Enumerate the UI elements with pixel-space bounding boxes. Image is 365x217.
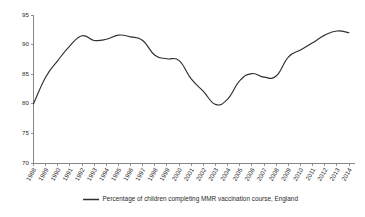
y-tick-label: 75 bbox=[22, 129, 29, 136]
x-tick-label: 2014 bbox=[340, 166, 353, 182]
x-tick-label: 2008 bbox=[267, 166, 280, 182]
y-tick-label: 70 bbox=[22, 159, 29, 166]
x-tick-label: 2005 bbox=[231, 166, 244, 182]
x-tick-label: 1998 bbox=[146, 166, 159, 182]
x-tick-label: 1992 bbox=[73, 166, 86, 182]
x-tick-label-group: 1988198919901991199219931994199519961997… bbox=[24, 166, 353, 182]
x-tick-label: 2004 bbox=[219, 166, 232, 182]
x-tick-label: 1991 bbox=[61, 166, 74, 182]
x-tick-label: 1997 bbox=[134, 166, 147, 182]
x-tick-label: 1995 bbox=[109, 166, 122, 182]
x-tick-label: 2006 bbox=[243, 166, 256, 182]
x-tick-label: 2010 bbox=[291, 166, 304, 182]
y-tick-label-group: 707580859095 bbox=[22, 11, 29, 166]
x-tick-label: 2007 bbox=[255, 166, 268, 182]
y-tick-label: 85 bbox=[22, 70, 29, 77]
chart-legend: Percentage of children completing MMR va… bbox=[83, 195, 298, 203]
x-axis: 1988198919901991199219931994199519961997… bbox=[24, 163, 355, 182]
chart-canvas: 707580859095 198819891990199119921993199… bbox=[0, 0, 365, 217]
x-tick-label: 1999 bbox=[158, 166, 171, 182]
legend-label: Percentage of children completing MMR va… bbox=[103, 195, 299, 203]
y-tick-label: 80 bbox=[22, 99, 29, 106]
x-tick-label: 2013 bbox=[328, 166, 341, 182]
plot-series-group bbox=[34, 31, 350, 105]
x-tick-label: 2001 bbox=[182, 166, 195, 182]
y-tick-label: 90 bbox=[22, 40, 29, 47]
x-tick-label: 1994 bbox=[97, 166, 110, 182]
x-tick-label: 2009 bbox=[279, 166, 292, 182]
x-tick-label: 1989 bbox=[37, 166, 50, 182]
x-tick-label: 2000 bbox=[170, 166, 183, 182]
x-tick-label: 2012 bbox=[316, 166, 329, 182]
y-tick-label: 95 bbox=[22, 11, 29, 18]
mmr-vaccination-line-chart: 707580859095 198819891990199119921993199… bbox=[0, 0, 365, 217]
x-tick-label: 1996 bbox=[121, 166, 134, 182]
x-tick-label: 1988 bbox=[24, 166, 37, 182]
data-series-line bbox=[34, 31, 350, 105]
y-axis: 707580859095 bbox=[22, 11, 33, 166]
x-tick-label: 2003 bbox=[206, 166, 219, 182]
x-tick-label: 1990 bbox=[49, 166, 62, 182]
x-tick-label: 1993 bbox=[85, 166, 98, 182]
x-tick-label: 2011 bbox=[304, 166, 317, 182]
x-tick-label: 2002 bbox=[194, 166, 207, 182]
